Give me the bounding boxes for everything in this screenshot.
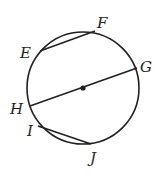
label-J: J (87, 149, 97, 167)
label-H: H (9, 100, 24, 118)
center-point (80, 85, 85, 90)
label-F: F (96, 14, 108, 32)
label-I: I (26, 122, 34, 140)
circle-diagram: F E G H I J (0, 0, 155, 176)
label-G: G (140, 58, 152, 76)
label-E: E (19, 44, 31, 62)
